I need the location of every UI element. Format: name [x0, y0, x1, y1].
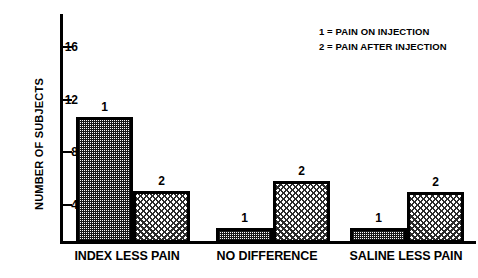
legend-entry-1: 1 = PAIN ON INJECTION: [319, 24, 447, 39]
bar-saline-less-pain-series2: [407, 192, 464, 243]
y-axis-title: NUMBER OF SUBJECTS: [33, 49, 45, 239]
bar-label-saline-less-pain-series2: 2: [407, 176, 464, 188]
bar-index-less-pain-series1: [76, 117, 133, 243]
bar-no-difference-series2: [273, 181, 330, 243]
bar-label-no-difference-series2: 2: [273, 165, 330, 177]
x-axis-label-index-less-pain: INDEX LESS PAIN: [62, 249, 192, 263]
bar-label-index-less-pain-series1: 1: [76, 101, 133, 113]
bar-chart: NUMBER OF SUBJECTS 16 12 8 4 1 2 1 2 1 2: [0, 0, 478, 278]
bar-label-index-less-pain-series2: 2: [133, 175, 190, 187]
x-axis-label-no-difference: NO DIFFERENCE: [200, 249, 334, 263]
bar-saline-less-pain-series1: [350, 228, 407, 243]
bar-index-less-pain-series2: [133, 191, 190, 243]
bar-label-saline-less-pain-series1: 1: [350, 212, 407, 224]
bar-label-no-difference-series1: 1: [216, 212, 273, 224]
x-axis-label-saline-less-pain: SALINE LESS PAIN: [338, 249, 474, 263]
legend: 1 = PAIN ON INJECTION 2 = PAIN AFTER INJ…: [319, 24, 447, 54]
bar-no-difference-series1: [216, 228, 273, 243]
legend-entry-2: 2 = PAIN AFTER INJECTION: [319, 39, 447, 54]
